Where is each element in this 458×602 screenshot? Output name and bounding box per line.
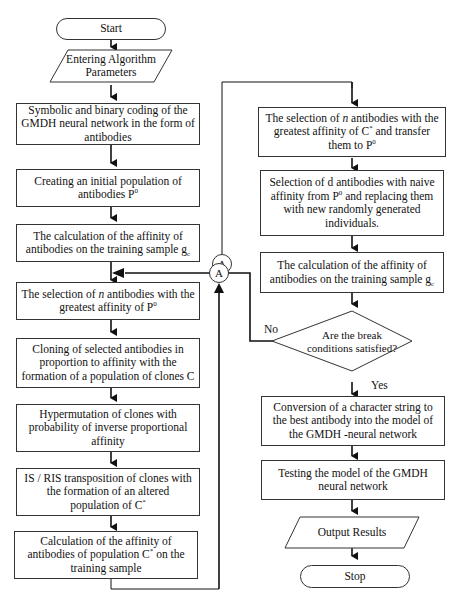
replace-d-antibodies-label: Selection of d antibodies with naive aff… [265, 176, 439, 230]
coding-label: Symbolic and binary coding of the GMDH n… [21, 104, 195, 145]
cloning-step: Cloning of selected antibodies in propor… [16, 338, 200, 388]
affinity-calculation-clones-step: Calculation of the affinity of antibodie… [14, 531, 198, 579]
connector-a-label: A [215, 267, 223, 279]
initial-population-label: Creating an initial population of antibo… [21, 175, 195, 202]
start-terminal: Start [56, 18, 166, 40]
replace-d-antibodies-step: Selection of d antibodies with naive aff… [260, 170, 444, 236]
stop-label: Stop [344, 570, 365, 584]
cloning-label: Cloning of selected antibodies in propor… [21, 343, 195, 384]
affinity-calculation-label-1: The calculation of the affinity of antib… [21, 230, 195, 257]
testing-label: Testing the model of the GMDH neural net… [266, 467, 440, 494]
coding-step: Symbolic and binary coding of the GMDH n… [16, 103, 200, 145]
output-results-io: Output Results [285, 517, 419, 548]
select-n-from-clones-step: The selection of n antibodies with the g… [258, 107, 446, 157]
input-parameters-label: Entering Algorithm Parameters [54, 53, 168, 80]
hypermutation-step: Hypermutation of clones with probability… [16, 404, 200, 452]
affinity-calculation-step-1: The calculation of the affinity of antib… [16, 224, 200, 262]
decision-break-conditions: Are the break conditions satisfied? [300, 320, 404, 364]
start-label: Start [100, 22, 122, 36]
decision-label: Are the break conditions satisfied? [304, 329, 400, 355]
affinity-calculation-step-2: The calculation of the affinity of antib… [260, 252, 444, 293]
select-n-from-clones-label: The selection of n antibodies with the g… [263, 112, 441, 153]
conversion-step: Conversion of a character string to the … [261, 396, 445, 446]
no-branch-label: No [264, 323, 278, 335]
connector-a-bottom: A [209, 263, 229, 283]
output-results-label: Output Results [318, 526, 387, 540]
conversion-label: Conversion of a character string to the … [266, 401, 440, 442]
input-parameters-io: Entering Algorithm Parameters [50, 50, 172, 82]
yes-branch-label: Yes [371, 379, 388, 391]
select-n-antibodies-step: The selection of n antibodies with the g… [16, 282, 200, 320]
hypermutation-label: Hypermutation of clones with probability… [21, 408, 195, 449]
affinity-calculation-label-2: The calculation of the affinity of antib… [265, 259, 439, 286]
transposition-label: IS / RIS transposition of clones with th… [21, 472, 195, 513]
affinity-calculation-clones-label: Calculation of the affinity of antibodie… [19, 535, 193, 576]
testing-step: Testing the model of the GMDH neural net… [261, 460, 445, 500]
stop-terminal: Stop [300, 565, 410, 588]
initial-population-step: Creating an initial population of antibo… [16, 169, 200, 207]
select-n-antibodies-label: The selection of n antibodies with the g… [21, 288, 195, 315]
transposition-step: IS / RIS transposition of clones with th… [16, 468, 200, 516]
